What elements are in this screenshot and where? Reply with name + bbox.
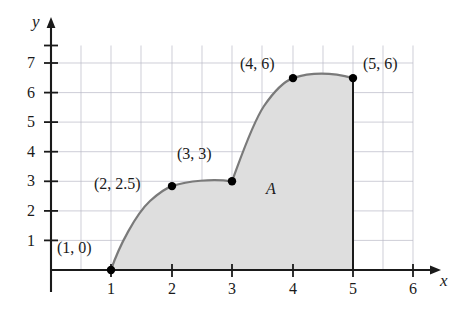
y-tick-6: 6 — [22, 85, 40, 101]
x-axis-label: x — [440, 272, 448, 289]
x-tick-3: 3 — [223, 281, 241, 297]
y-tick-4: 4 — [22, 144, 40, 160]
point-label-2-2.5: (2, 2.5) — [94, 176, 141, 192]
point-label-1-0: (1, 0) — [57, 240, 92, 256]
y-tick-5: 5 — [22, 114, 40, 130]
x-tick-2: 2 — [163, 281, 181, 297]
y-tick-1: 1 — [22, 233, 40, 249]
point-label-3-3: (3, 3) — [177, 146, 212, 162]
y-axis-arrow — [47, 17, 56, 28]
figure-container: y x 7 6 5 4 3 2 1 1 2 3 4 5 6 (1, 0) (2,… — [0, 0, 471, 316]
data-point-5-6 — [349, 74, 357, 82]
point-label-4-6: (4, 6) — [240, 56, 275, 72]
region-label-A: A — [266, 181, 276, 197]
x-tick-1: 1 — [102, 281, 120, 297]
y-tick-7: 7 — [22, 55, 40, 71]
x-tick-5: 5 — [344, 281, 362, 297]
x-tick-4: 4 — [284, 281, 302, 297]
chart-canvas — [0, 0, 471, 316]
data-point-1-0 — [107, 266, 115, 274]
data-point-3-3 — [228, 177, 236, 185]
y-tick-3: 3 — [22, 173, 40, 189]
point-label-5-6: (5, 6) — [363, 56, 398, 72]
data-point-4-6 — [289, 74, 297, 82]
y-tick-2: 2 — [22, 203, 40, 219]
data-point-2-2.5 — [168, 182, 176, 190]
x-tick-6: 6 — [404, 281, 422, 297]
y-axis-label: y — [32, 13, 40, 30]
